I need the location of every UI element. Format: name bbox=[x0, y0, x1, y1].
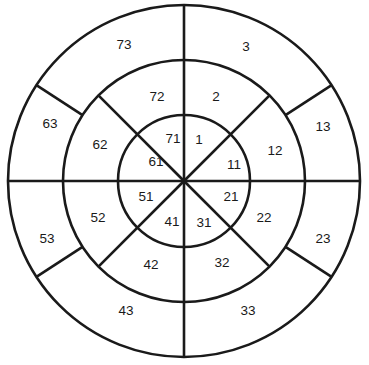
cell-label-31: 31 bbox=[196, 215, 211, 230]
cell-label-53: 53 bbox=[39, 231, 54, 246]
cell-label-71: 71 bbox=[165, 131, 180, 146]
sector-divider-lines bbox=[8, 5, 360, 357]
cell-label-72: 72 bbox=[149, 89, 164, 104]
cell-label-41: 41 bbox=[164, 214, 179, 229]
outer-divider-135deg bbox=[36, 247, 82, 277]
outer-divider-315deg bbox=[285, 85, 331, 115]
cell-label-43: 43 bbox=[118, 303, 133, 318]
cell-label-2: 2 bbox=[212, 89, 220, 104]
outer-divider-45deg bbox=[285, 247, 331, 277]
cell-label-11: 11 bbox=[227, 157, 241, 172]
cell-label-42: 42 bbox=[143, 257, 158, 272]
cell-label-62: 62 bbox=[92, 137, 107, 152]
cell-label-33: 33 bbox=[240, 303, 255, 318]
radial-sector-diagram: 1112131415161712122232425262723132333435… bbox=[0, 0, 369, 365]
cell-label-13: 13 bbox=[315, 119, 330, 134]
cell-label-52: 52 bbox=[90, 210, 105, 225]
cell-label-1: 1 bbox=[195, 132, 203, 147]
cell-label-32: 32 bbox=[214, 255, 229, 270]
cell-label-61: 61 bbox=[148, 154, 163, 169]
cell-label-23: 23 bbox=[315, 231, 330, 246]
cell-label-63: 63 bbox=[42, 116, 57, 131]
cell-label-51: 51 bbox=[138, 189, 153, 204]
diagram-canvas: 1112131415161712122232425262723132333435… bbox=[0, 0, 369, 365]
outer-divider-225deg bbox=[36, 85, 82, 115]
cell-label-22: 22 bbox=[256, 210, 271, 225]
cell-label-12: 12 bbox=[267, 143, 282, 158]
cell-label-21: 21 bbox=[223, 189, 238, 204]
cell-label-73: 73 bbox=[116, 37, 131, 52]
cell-label-3: 3 bbox=[242, 39, 250, 54]
